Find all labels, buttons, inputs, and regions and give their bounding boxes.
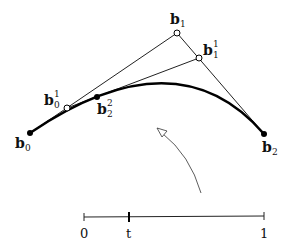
- svg-text:b: b: [170, 11, 180, 27]
- svg-text:1: 1: [180, 19, 186, 29]
- label-b0-1: b 1 0: [44, 89, 60, 110]
- label-b1: b 1: [170, 11, 186, 29]
- point-b0-1: [64, 105, 70, 111]
- point-b1-1: [196, 55, 202, 61]
- svg-text:1: 1: [213, 50, 219, 60]
- svg-text:1: 1: [213, 39, 219, 49]
- svg-text:b: b: [15, 135, 25, 151]
- label-b1-1: b 1 1: [203, 39, 219, 60]
- label-b2-2: b 2 2: [97, 98, 113, 119]
- svg-text:1: 1: [54, 89, 60, 99]
- label-one: 1: [260, 226, 268, 241]
- svg-text:0: 0: [54, 100, 60, 110]
- label-t: t: [126, 226, 132, 241]
- svg-text:0: 0: [25, 143, 31, 153]
- svg-text:b: b: [97, 101, 107, 117]
- svg-text:2: 2: [107, 109, 113, 119]
- point-b1: [174, 30, 180, 36]
- svg-text:b: b: [262, 139, 272, 155]
- svg-text:2: 2: [272, 147, 278, 157]
- label-zero: 0: [80, 226, 88, 241]
- label-b2: b 2: [262, 139, 278, 157]
- label-b0: b 0: [15, 135, 31, 153]
- svg-text:b: b: [44, 92, 54, 108]
- svg-text:b: b: [203, 42, 213, 58]
- svg-text:2: 2: [107, 98, 113, 108]
- de-casteljau-diagram: b 1 b 1 1 b 1 0 b 2 2 b 0 b 2 0 t 1: [0, 0, 294, 247]
- point-b2: [261, 131, 267, 137]
- parameter-line: [84, 212, 264, 222]
- point-b0: [27, 130, 33, 136]
- mapping-arrow-icon: [157, 128, 201, 193]
- point-b2-2: [94, 94, 100, 100]
